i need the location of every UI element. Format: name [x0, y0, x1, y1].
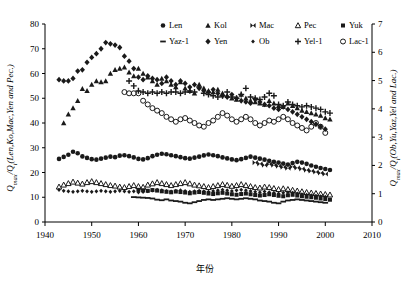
legend-marker-ob	[251, 39, 255, 43]
point-lac-1	[183, 116, 188, 121]
point-len	[80, 154, 85, 159]
point-len	[103, 155, 108, 160]
point-lac-1	[304, 128, 309, 133]
legend-marker-yen	[205, 39, 210, 45]
legend-item-yel_1: Yel-1	[295, 36, 323, 46]
point-kol	[61, 120, 66, 125]
y-tick-label-left: 20	[30, 168, 40, 178]
point-len	[295, 160, 300, 165]
point-ob	[127, 190, 131, 194]
point-yen	[56, 77, 61, 83]
legend-label-lac-1: Lac-1	[349, 36, 369, 46]
point-pec	[108, 183, 113, 188]
point-len	[239, 157, 244, 162]
legend-label-yaz-1: Yaz-1	[169, 36, 189, 46]
point-yel-1	[243, 85, 249, 91]
point-yel-1	[145, 90, 151, 96]
point-pec	[159, 181, 164, 186]
legend-item-yuk: Yuk	[341, 20, 363, 30]
legend-item-kol: Kol	[205, 20, 227, 30]
point-lac-1	[155, 108, 160, 113]
point-len	[131, 155, 136, 160]
point-lac-1	[187, 118, 192, 123]
x-axis-title: 年份	[196, 263, 214, 274]
legend-marker-yel-1	[295, 39, 301, 45]
point-yel-1	[149, 89, 155, 95]
point-pec	[89, 179, 94, 184]
x-tick-label: 2010	[363, 230, 382, 240]
point-len	[286, 162, 291, 167]
y-axis-title-right-text: Qmax/Qi(Ob,Yu,Yaz,Yel and Lac.)	[388, 69, 401, 186]
point-len	[230, 157, 235, 162]
point-len	[164, 152, 169, 157]
point-len	[244, 156, 249, 161]
point-yel-1	[173, 89, 179, 95]
legend-label-kol: Kol	[214, 20, 227, 30]
point-ob	[57, 188, 61, 192]
legend-marker-yuk	[341, 24, 345, 28]
point-kol	[80, 86, 85, 91]
point-pec	[248, 184, 253, 189]
point-yuk	[235, 193, 239, 197]
point-yel-1	[304, 103, 310, 109]
point-pec	[75, 180, 80, 185]
point-pec	[66, 181, 71, 186]
point-lac-1	[173, 119, 178, 124]
point-yel-1	[299, 104, 305, 110]
legend-item-pec: Pec	[295, 20, 316, 30]
point-ob	[109, 190, 113, 194]
point-ob	[66, 189, 70, 193]
point-yen	[103, 40, 108, 46]
point-kol	[313, 112, 318, 117]
point-yen	[248, 100, 253, 106]
point-len	[309, 163, 314, 168]
point-yen	[150, 76, 155, 82]
point-len	[323, 167, 328, 172]
point-kol	[75, 98, 80, 103]
legend-label-pec: Pec	[304, 20, 317, 30]
point-mac	[262, 162, 267, 167]
point-yen	[61, 78, 66, 84]
point-yel-1	[131, 83, 137, 89]
x-tick-label: 1940	[36, 230, 55, 240]
point-kol	[159, 76, 164, 81]
point-mac	[313, 169, 318, 174]
point-yen	[267, 103, 272, 109]
point-len	[211, 153, 216, 158]
point-lac-1	[309, 124, 314, 129]
point-yen	[122, 53, 127, 59]
point-yuk	[328, 198, 332, 202]
point-len	[206, 152, 211, 157]
point-kol	[267, 98, 272, 103]
point-lac-1	[164, 114, 169, 119]
legend-marker-kol	[205, 23, 210, 28]
point-len	[122, 153, 127, 158]
point-pec	[136, 184, 141, 189]
point-pec	[182, 180, 187, 185]
point-len	[71, 149, 76, 154]
chart-figure: 0102030405060708001234567194019501960197…	[0, 0, 404, 283]
legend-item-lac_1: Lac-1	[341, 36, 369, 46]
point-lac-1	[220, 111, 225, 116]
y-tick-label-right: 6	[378, 47, 383, 57]
point-pec	[80, 181, 85, 186]
point-yel-1	[224, 89, 230, 95]
point-yel-1	[196, 84, 202, 90]
point-ob	[71, 190, 75, 194]
point-pec	[196, 183, 201, 188]
point-pec	[262, 184, 267, 189]
point-yen	[131, 66, 136, 72]
point-lac-1	[290, 121, 295, 126]
point-len	[150, 154, 155, 159]
point-len	[276, 160, 281, 165]
point-kol	[309, 110, 314, 115]
point-kol	[136, 66, 141, 71]
point-yen	[75, 68, 80, 74]
chart-canvas: 0102030405060708001234567194019501960197…	[0, 0, 404, 283]
y-tick-label-right: 0	[378, 217, 383, 227]
y-tick-label-left: 30	[30, 143, 40, 153]
y-tick-label-left: 80	[30, 19, 40, 29]
point-pec	[281, 186, 286, 191]
point-yen	[271, 105, 276, 111]
point-pec	[327, 192, 332, 197]
